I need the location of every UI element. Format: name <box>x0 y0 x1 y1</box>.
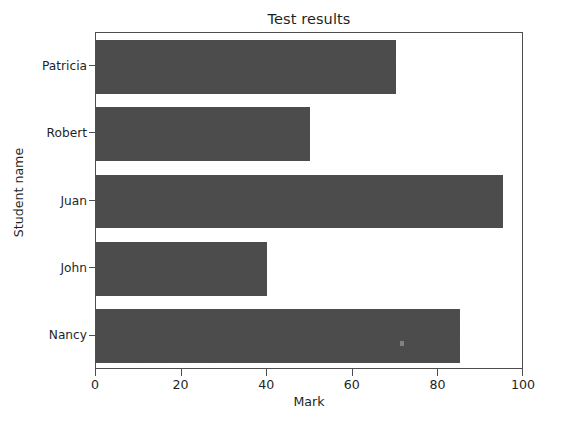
y-tick-label-robert: Robert <box>47 126 87 140</box>
chart-figure: Test results Patricia Robert Juan John N… <box>0 0 561 426</box>
y-tick-mark-robert <box>89 132 96 133</box>
x-tick-label-20: 20 <box>173 377 189 392</box>
x-axis-title: Mark <box>95 394 523 409</box>
y-tick-mark-juan <box>89 200 96 201</box>
bar-juan <box>96 175 503 229</box>
x-tick-mark-20 <box>181 369 182 376</box>
x-tick-mark-40 <box>266 369 267 376</box>
y-axis-title: Student name <box>11 93 26 293</box>
y-tick-label-nancy: Nancy <box>49 328 87 342</box>
bar-patricia <box>96 40 396 94</box>
bar-nancy <box>96 309 460 363</box>
x-tick-label-100: 100 <box>511 377 535 392</box>
y-tick-label-patricia: Patricia <box>42 59 87 73</box>
chart-title: Test results <box>95 11 523 28</box>
x-tick-mark-100 <box>522 369 523 376</box>
y-tick-label-john: John <box>61 261 88 275</box>
plot-area <box>95 32 523 369</box>
y-tick-mark-john <box>89 267 96 268</box>
x-tick-label-60: 60 <box>344 377 360 392</box>
x-tick-label-0: 0 <box>91 377 99 392</box>
y-tick-mark-nancy <box>89 335 96 336</box>
bar-robert <box>96 107 310 161</box>
x-tick-mark-0 <box>95 369 96 376</box>
x-tick-mark-60 <box>352 369 353 376</box>
x-tick-mark-80 <box>437 369 438 376</box>
x-tick-label-80: 80 <box>429 377 445 392</box>
x-tick-label-40: 40 <box>258 377 274 392</box>
bar-john <box>96 242 267 296</box>
y-tick-mark-patricia <box>89 65 96 66</box>
y-tick-label-juan: Juan <box>60 194 87 208</box>
